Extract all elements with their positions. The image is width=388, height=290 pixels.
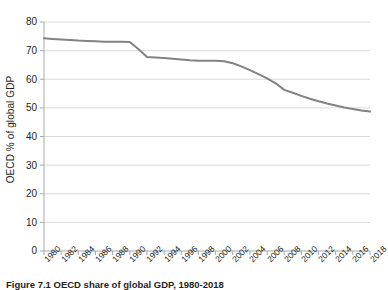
plot-area: 01020304050607080 bbox=[20, 10, 378, 260]
y-tick-label-group: 01020304050607080 bbox=[26, 16, 38, 256]
y-tick-label: 80 bbox=[26, 16, 38, 27]
line-chart-svg: 01020304050607080 bbox=[20, 10, 378, 260]
data-series-line bbox=[44, 38, 370, 111]
y-tick-mark-group bbox=[40, 22, 44, 251]
y-tick-label: 0 bbox=[31, 245, 37, 256]
y-axis-title-label: OECD % of global GDP bbox=[6, 75, 17, 183]
figure-caption: Figure 7.1 OECD share of global GDP, 198… bbox=[6, 279, 382, 290]
x-tick-mark-group bbox=[44, 251, 370, 255]
y-tick-label: 60 bbox=[26, 74, 38, 85]
y-tick-label: 10 bbox=[26, 217, 38, 228]
y-tick-label: 50 bbox=[26, 102, 38, 113]
y-tick-label: 70 bbox=[26, 45, 38, 56]
gridline-group bbox=[44, 22, 370, 222]
y-tick-label: 40 bbox=[26, 131, 38, 142]
y-tick-label: 20 bbox=[26, 188, 38, 199]
y-axis-title: OECD % of global GDP bbox=[0, 0, 22, 258]
y-tick-label: 30 bbox=[26, 160, 38, 171]
